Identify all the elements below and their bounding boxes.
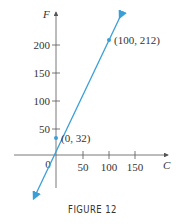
point-0-32: [54, 136, 58, 140]
point-100-212: [107, 38, 111, 42]
y-axis-label: F: [42, 8, 50, 20]
x-tick-150: 150: [127, 161, 144, 173]
chart: 200 150 100 50 50 100 150 0 C F (0, 32) …: [0, 0, 185, 224]
x-axis-label: C: [163, 159, 171, 171]
x-tick-50: 50: [78, 161, 90, 173]
y-tick-50: 50: [39, 123, 51, 135]
label-0-32: (0, 32): [61, 132, 91, 145]
y-tick-200: 200: [34, 39, 51, 51]
label-100-212: (100, 212): [114, 34, 160, 47]
y-tick-100: 100: [34, 95, 51, 107]
x-tick-100: 100: [101, 161, 118, 173]
figure-caption: FIGURE 12: [14, 204, 171, 215]
y-tick-150: 150: [34, 67, 51, 79]
